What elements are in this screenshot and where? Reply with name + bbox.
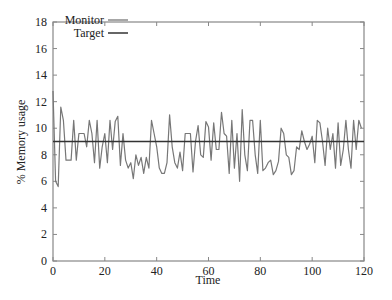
y-tick-label: 0 bbox=[41, 254, 47, 268]
y-tick-label: 14 bbox=[35, 68, 47, 82]
plot-area bbox=[53, 91, 364, 187]
y-tick-label: 6 bbox=[41, 174, 47, 188]
x-tick-label: 80 bbox=[254, 264, 266, 278]
y-tick-label: 10 bbox=[35, 121, 47, 135]
x-tick-label: 120 bbox=[355, 264, 373, 278]
y-tick-label: 4 bbox=[41, 201, 47, 215]
y-tick-label: 2 bbox=[41, 227, 47, 241]
legend: Monitor Target bbox=[65, 13, 128, 40]
series-monitor-line bbox=[53, 91, 361, 187]
x-tick-label: 100 bbox=[303, 264, 321, 278]
x-tick-label: 40 bbox=[151, 264, 163, 278]
legend-label-target: Target bbox=[74, 26, 105, 40]
y-tick-label: 12 bbox=[35, 95, 47, 109]
x-tick-label: 20 bbox=[99, 264, 111, 278]
legend-label-monitor: Monitor bbox=[65, 13, 104, 27]
y-tick-label: 8 bbox=[41, 148, 47, 162]
x-axis-label: Time bbox=[196, 273, 221, 287]
y-axis-label: % Memory usage bbox=[14, 100, 28, 185]
line-chart: 024681012141618 020406080100120 Monitor … bbox=[0, 0, 392, 300]
x-tick-label: 0 bbox=[50, 264, 56, 278]
y-tick-label: 16 bbox=[35, 42, 47, 56]
y-tick-label: 18 bbox=[35, 15, 47, 29]
